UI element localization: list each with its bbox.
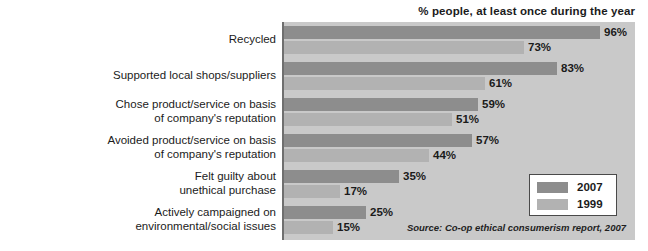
legend-item-1999: 1999 (537, 198, 603, 211)
category-label-avoided-product-service: Avoided product/service on basis of comp… (0, 134, 276, 161)
category-label-supported-local-shops: Supported local shops/suppliers (0, 69, 276, 83)
bar-value-1999-actively-campaigned: 15% (337, 221, 360, 234)
category-label-recycled: Recycled (0, 33, 276, 47)
bar-1999-avoided-product-service (284, 149, 429, 162)
bar-value-1999-avoided-product-service: 44% (433, 149, 456, 162)
bar-1999-felt-guilty (284, 185, 340, 198)
legend-item-2007: 2007 (537, 181, 603, 194)
category-label-line1: Chose product/service on basis (116, 98, 276, 110)
bar-2007-actively-campaigned (284, 206, 366, 219)
bar-1999-supported-local-shops (284, 77, 485, 90)
ethical-consumerism-bar-chart: % people, at least once during the year … (0, 0, 648, 251)
bar-value-1999-supported-local-shops: 61% (489, 77, 512, 90)
bar-2007-recycled (284, 26, 600, 39)
plot-area: 96% 73% 83% 61% 59% 51% 57% 44% 35% 17% … (282, 22, 635, 240)
bar-value-2007-felt-guilty: 35% (403, 170, 426, 183)
bar-value-1999-recycled: 73% (528, 41, 551, 54)
category-label-line1: Actively campaigned on (155, 206, 276, 218)
category-label-chose-product-service: Chose product/service on basis of compan… (0, 98, 276, 125)
bar-value-2007-actively-campaigned: 25% (370, 206, 393, 219)
legend-swatch-1999 (537, 199, 568, 210)
bar-1999-chose-product-service (284, 113, 452, 126)
category-label-line1: Recycled (229, 33, 276, 45)
category-label-felt-guilty: Felt guilty about unethical purchase (0, 170, 276, 197)
bar-2007-supported-local-shops (284, 62, 557, 75)
bar-value-2007-chose-product-service: 59% (482, 98, 505, 111)
category-label-line1: Avoided product/service on basis (107, 134, 276, 146)
category-label-line2: of company's reputation (0, 148, 276, 162)
bar-value-2007-supported-local-shops: 83% (561, 62, 584, 75)
category-label-line1: Supported local shops/suppliers (113, 69, 276, 81)
bar-value-2007-recycled: 96% (604, 26, 627, 39)
chart-title: % people, at least once during the year (418, 5, 635, 17)
bar-value-2007-avoided-product-service: 57% (476, 134, 499, 147)
bar-2007-avoided-product-service (284, 134, 472, 147)
category-axis-labels: Recycled Supported local shops/suppliers… (0, 22, 276, 240)
source-note: Source: Co-op ethical consumerism report… (407, 222, 626, 233)
bar-value-1999-felt-guilty: 17% (344, 185, 367, 198)
legend-label-1999: 1999 (577, 198, 603, 211)
category-label-line2: of company's reputation (0, 112, 276, 126)
legend-label-2007: 2007 (577, 181, 603, 194)
category-label-actively-campaigned: Actively campaigned on environmental/soc… (0, 206, 276, 233)
bar-1999-actively-campaigned (284, 221, 333, 234)
category-label-line2: environmental/social issues (0, 220, 276, 234)
legend-swatch-2007 (537, 182, 568, 193)
legend: 2007 1999 (529, 174, 617, 216)
category-label-line2: unethical purchase (0, 184, 276, 198)
bar-1999-recycled (284, 41, 524, 54)
bar-value-1999-chose-product-service: 51% (456, 113, 479, 126)
category-label-line1: Felt guilty about (195, 170, 276, 182)
bar-2007-felt-guilty (284, 170, 399, 183)
bar-2007-chose-product-service (284, 98, 478, 111)
